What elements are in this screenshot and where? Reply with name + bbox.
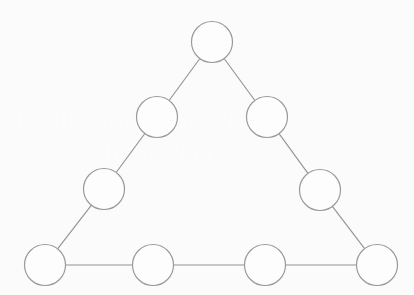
edge-apex-left-upper — [169, 59, 200, 101]
graph-node-bottom-mid-2 — [245, 245, 286, 286]
graph-node-left-lower — [84, 169, 125, 210]
edge-right-upper-right-lower — [279, 134, 308, 174]
graph-node-bottom-right — [357, 245, 398, 286]
graph-node-bottom-mid-1 — [133, 245, 174, 286]
graph-node-right-lower — [300, 170, 341, 211]
edge-left-lower-bottom-left — [58, 205, 92, 249]
edge-group — [58, 59, 365, 265]
graph-node-apex — [192, 22, 233, 63]
graph-canvas — [0, 0, 414, 295]
graph-node-bottom-left — [25, 245, 66, 286]
triangle-node-diagram: Ilwlwt w owwluw ll w pulw lw ulwy w — [0, 0, 414, 295]
graph-node-left-upper — [137, 97, 178, 138]
node-group — [25, 22, 398, 286]
graph-node-right-upper — [247, 97, 288, 138]
edge-right-lower-bottom-right — [332, 206, 364, 248]
edge-left-upper-left-lower — [116, 134, 145, 173]
edge-apex-right-upper — [224, 59, 255, 101]
